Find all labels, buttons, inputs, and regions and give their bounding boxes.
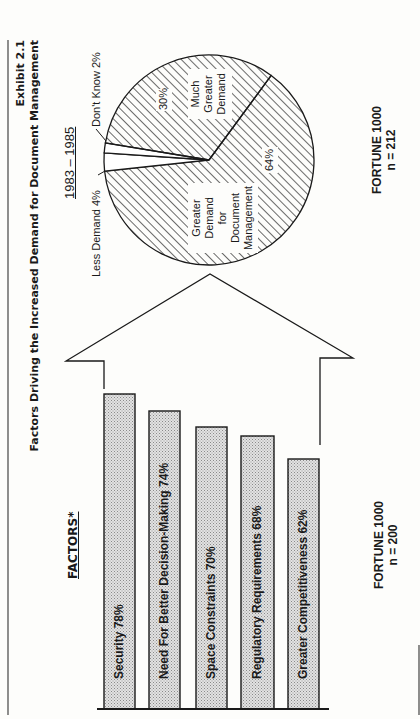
left-sample-line1: FORTUNE 1000 [372, 495, 386, 595]
right-sample-line2: n = 212 [384, 100, 398, 200]
factors-heading: FACTORS* [66, 512, 80, 579]
right-sample-line1: FORTUNE 1000 [370, 100, 384, 200]
greater-line4: Document [229, 183, 242, 253]
exhibit-number: Exhibit 2.1 [14, 40, 27, 106]
page-title: Factors Driving the Increased Demand for… [28, 40, 41, 452]
bar-label-space-constraints: Space Constraints 70% [204, 546, 218, 679]
greater-label: Greater Demand for Document Management [190, 183, 255, 253]
leader-dont-know [96, 129, 106, 141]
less-demand-label: Less Demand 4% [90, 190, 102, 277]
greater-line1: Greater [190, 183, 203, 253]
bar-label-decision-making: Need For Better Decision-Making 74% [157, 463, 171, 679]
left-sample-note: FORTUNE 1000 n = 200 [372, 495, 400, 595]
greater-pct: 64% [263, 149, 275, 171]
much-greater-line1: Much [189, 69, 202, 119]
period-label: 1983 – 1985 [62, 127, 77, 199]
much-greater-line3: Demand [215, 69, 228, 119]
exhibit-page: Exhibit 2.1 Factors Driving the Increase… [0, 0, 420, 719]
bar-label-regulatory: Regulatory Requirements 68% [250, 506, 264, 679]
much-greater-label: Much Greater Demand [189, 69, 228, 119]
bar-label-security: Security 78% [112, 604, 126, 679]
leader-less-demand [98, 171, 105, 175]
much-greater-line2: Greater [202, 69, 215, 119]
much-greater-pct: 30% [157, 88, 169, 110]
dont-know-label: Don't Know 2% [90, 52, 102, 127]
left-sample-line2: n = 200 [386, 495, 400, 595]
right-sample-note: FORTUNE 1000 n = 212 [370, 100, 398, 200]
greater-line5: Management [242, 183, 255, 253]
greater-line3: for [216, 183, 229, 253]
greater-line2: Demand [203, 183, 216, 253]
bar-label-competitiveness: Greater Competitiveness 62% [296, 510, 310, 679]
